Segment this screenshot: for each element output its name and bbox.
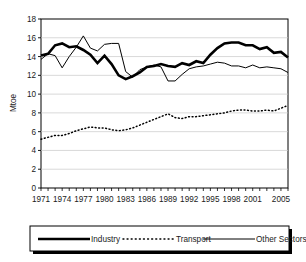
- y-tick-label: 10: [27, 90, 37, 99]
- y-tick-label: 6: [31, 128, 36, 137]
- y-tick-label: 0: [31, 184, 36, 193]
- x-tick-label: 1992: [180, 195, 199, 204]
- y-tick-label: 14: [27, 53, 37, 62]
- y-tick-label: 18: [27, 15, 37, 24]
- x-tick-label: 1971: [32, 195, 51, 204]
- x-tick-label: 1989: [159, 195, 178, 204]
- x-tick-label: 1974: [53, 195, 72, 204]
- x-tick-label: 2001: [244, 195, 263, 204]
- x-tick-label: 2005: [272, 195, 291, 204]
- y-tick-label: 4: [31, 146, 36, 155]
- y-axis-label: Mtoe: [9, 93, 18, 112]
- y-tick-label: 12: [27, 71, 37, 80]
- energy-consumption-line-chart: 024681012141618 197119741977198019831986…: [0, 0, 306, 262]
- x-tick-label: 1986: [138, 195, 157, 204]
- x-tick-label: 1983: [117, 195, 136, 204]
- x-axis-tick-labels: 1971197419771980198319861989199219951998…: [32, 195, 291, 204]
- x-tick-label: 1980: [95, 195, 114, 204]
- x-tick-label: 1998: [222, 195, 241, 204]
- legend-label-other-sectors: Other Sectors****: [256, 234, 306, 244]
- x-tick-label: 1977: [74, 195, 93, 204]
- y-tick-label: 2: [31, 165, 36, 174]
- legend-label-industry: Industry: [91, 235, 121, 244]
- x-tick-label: 1995: [201, 195, 220, 204]
- y-tick-label: 16: [27, 34, 37, 43]
- y-tick-label: 8: [31, 109, 36, 118]
